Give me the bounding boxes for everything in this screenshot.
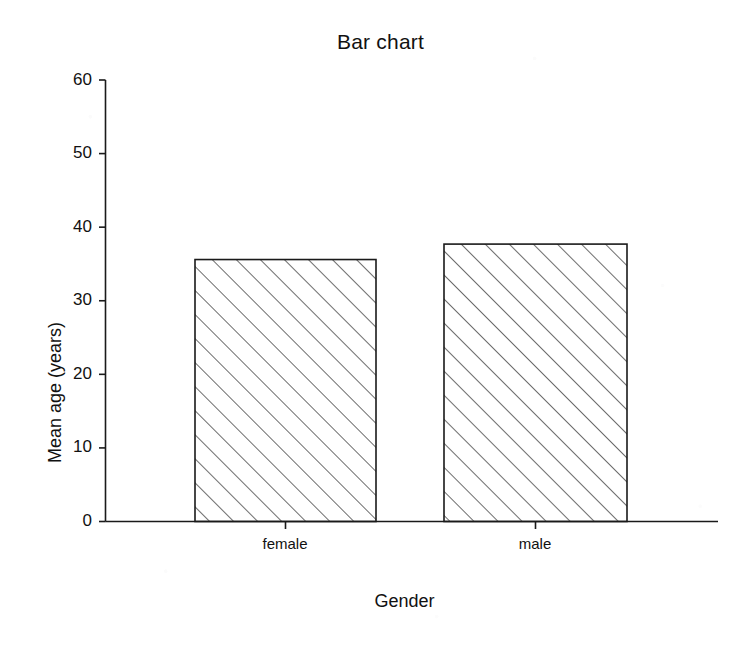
x-axis-ticks xyxy=(286,522,536,530)
y-axis-ticks xyxy=(99,80,106,522)
plot-area xyxy=(0,0,753,649)
x-axis-label: Gender xyxy=(0,591,753,612)
x-axis-label-text: Gender xyxy=(374,591,434,611)
x-tick-label-male: male xyxy=(455,535,615,552)
bar-series-mean-age xyxy=(195,244,627,521)
x-tick-label-female: female xyxy=(205,535,365,552)
y-axis-label-text: Mean age (years) xyxy=(45,322,65,463)
bar-female[interactable] xyxy=(195,260,376,522)
bar-chart-figure: Bar chart xyxy=(0,0,753,649)
bar-male[interactable] xyxy=(444,244,627,521)
y-axis-label: Mean age (years) xyxy=(22,0,88,649)
